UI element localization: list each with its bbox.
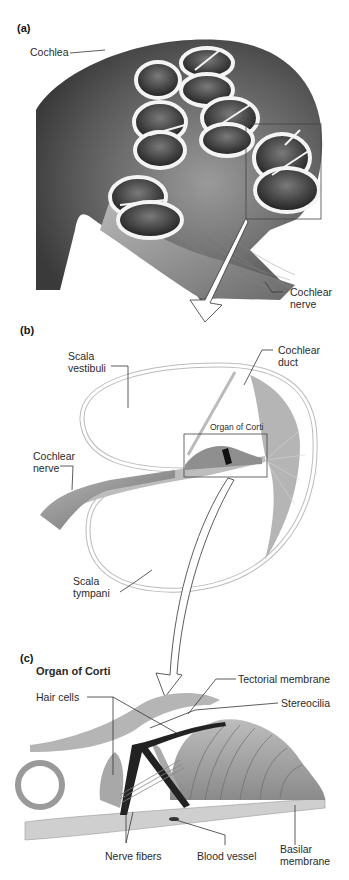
panel-a-cochlea-art xyxy=(36,40,322,322)
panel-c-label: (c) xyxy=(20,652,33,664)
label-tectorial-membrane: Tectorial membrane xyxy=(238,673,330,685)
panel-c-organ-of-corti-art xyxy=(18,679,325,845)
label-hair-cells: Hair cells xyxy=(36,691,79,703)
label-organ-of-corti-b: Organ of Corti xyxy=(210,421,263,433)
panel-a-label: (a) xyxy=(17,22,30,34)
label-blood-vessel: Blood vessel xyxy=(197,850,257,862)
label-cochlear-nerve-a: Cochlear nerve xyxy=(290,286,332,310)
label-basilar-membrane: Basilar membrane xyxy=(280,843,330,867)
label-cochlear-duct: Cochlear duct xyxy=(278,344,320,368)
label-nerve-fibers: Nerve fibers xyxy=(105,850,162,862)
label-stereocilia: Stereocilia xyxy=(281,697,330,709)
panel-c-title: Organ of Corti xyxy=(36,665,111,677)
label-cochlea: Cochlea xyxy=(30,46,69,58)
label-cochlear-nerve-b: Cochlear nerve xyxy=(33,450,75,474)
panel-b-cross-section-art xyxy=(40,350,315,697)
label-scala-vestibuli: Scala vestibuli xyxy=(68,350,106,374)
panel-b-label: (b) xyxy=(20,324,34,336)
label-scala-tympani: Scala tympani xyxy=(73,575,110,599)
cochlea-diagram-art xyxy=(0,0,349,880)
